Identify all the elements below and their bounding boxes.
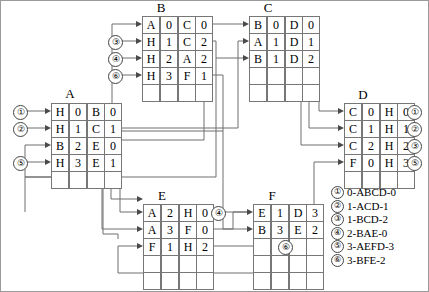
- cell: [52, 172, 70, 189]
- legend-item: ④ 2-BAE-0: [331, 227, 396, 241]
- marker-input-2: ②: [13, 122, 28, 137]
- legend-item: ⑤ 3-AEFD-3: [331, 240, 396, 254]
- table-row: [254, 273, 324, 290]
- cell: 0: [303, 17, 320, 34]
- cell: D: [289, 205, 307, 222]
- table-row: H 2 A 2: [143, 51, 213, 68]
- cell: [197, 273, 214, 290]
- cell: 2: [196, 51, 213, 68]
- cell: H: [143, 34, 161, 51]
- cell: 3: [307, 205, 324, 222]
- table-B: A 0 C 0 H 1 C 2 H 2 A 2 H 3 F 1: [142, 16, 213, 102]
- table-row: B 2 E 0: [52, 138, 122, 155]
- marker-output-2: ②: [407, 122, 422, 137]
- legend-marker-icon: ②: [331, 200, 344, 213]
- cell: F: [144, 239, 162, 256]
- cell: C: [87, 121, 105, 138]
- diagram-canvas: A H 0 B 0 H 1 C 1 B 2 E 0 H 3 E 1: [0, 0, 429, 292]
- cell: B: [250, 51, 268, 68]
- cell: 1: [267, 51, 285, 68]
- cell: H: [179, 239, 197, 256]
- legend-label: 1-ACD-1: [347, 200, 389, 214]
- legend-marker-icon: ①: [331, 186, 344, 199]
- table-row: H 0 B 0: [52, 104, 122, 121]
- legend-label: 3-AEFD-3: [347, 240, 394, 254]
- cell: 2: [161, 205, 179, 222]
- cell: 1: [105, 121, 122, 138]
- cell: A: [144, 222, 162, 239]
- cell: 1: [161, 239, 179, 256]
- cell: 1: [105, 155, 122, 172]
- table-row: B 3 E 2: [254, 222, 324, 239]
- table-title-C: C: [233, 2, 303, 14]
- cell: 3: [160, 68, 178, 85]
- cell: [197, 256, 214, 273]
- cell: [87, 172, 105, 189]
- legend-marker-icon: ⑤: [331, 240, 344, 253]
- table-row: F 1 H 2: [144, 239, 214, 256]
- cell: D: [285, 34, 303, 51]
- legend-marker-icon: ③: [331, 213, 344, 226]
- cell: 3: [69, 155, 87, 172]
- table-row: [143, 85, 213, 102]
- cell: C: [178, 17, 196, 34]
- cell: A: [143, 17, 161, 34]
- table-row: B 1 D 2: [250, 51, 320, 68]
- cell: [178, 85, 196, 102]
- cell: 1: [160, 34, 178, 51]
- table-row: A 1 D 1: [250, 34, 320, 51]
- cell: [303, 68, 320, 85]
- cell: [196, 85, 213, 102]
- cell: A: [250, 34, 268, 51]
- cell: H: [380, 121, 398, 138]
- cell: D: [285, 51, 303, 68]
- table-row: A 2 H 0: [144, 205, 214, 222]
- cell: [144, 273, 162, 290]
- cell: [303, 85, 320, 102]
- legend: ① 0-ABCD-0 ② 1-ACD-1 ③ 1-BCD-2 ④ 2-BAE-0…: [331, 186, 396, 267]
- marker-output-4: ④: [211, 206, 226, 221]
- cell: H: [380, 138, 398, 155]
- cell: [307, 239, 324, 256]
- cell: H: [179, 205, 197, 222]
- cell: B: [87, 104, 105, 121]
- marker-input-5: ⑤: [13, 156, 28, 171]
- cell: 2: [307, 222, 324, 239]
- cell: 2: [69, 138, 87, 155]
- cell: [285, 85, 303, 102]
- cell: 0: [267, 17, 285, 34]
- table-row: H 3 F 1: [143, 68, 213, 85]
- cell: [267, 85, 285, 102]
- cell: 1: [303, 34, 320, 51]
- cell: 0: [105, 104, 122, 121]
- cell: 0: [362, 155, 380, 172]
- cell: [250, 68, 268, 85]
- cell: H: [52, 155, 70, 172]
- marker-output-5: ⑤: [407, 156, 422, 171]
- cell: 3: [271, 222, 289, 239]
- cell: [398, 172, 415, 189]
- table-row: C 2 H 2: [345, 138, 415, 155]
- cell: 2: [362, 138, 380, 155]
- table-row: [250, 68, 320, 85]
- cell: B: [52, 138, 70, 155]
- table-title-B: B: [126, 2, 196, 14]
- cell: H: [52, 104, 70, 121]
- cell: 1: [69, 121, 87, 138]
- marker-input-1: ①: [13, 105, 28, 120]
- cell: 2: [303, 51, 320, 68]
- cell: C: [178, 34, 196, 51]
- cell: D: [285, 17, 303, 34]
- cell: [307, 256, 324, 273]
- table-row: B 0 D 0: [250, 17, 320, 34]
- legend-label: 1-BCD-2: [347, 213, 388, 227]
- cell: 2: [197, 239, 214, 256]
- table-title-F: F: [237, 190, 307, 202]
- cell: E: [254, 205, 272, 222]
- cell: [271, 273, 289, 290]
- cell: 2: [160, 51, 178, 68]
- cell: [179, 256, 197, 273]
- cell: 1: [271, 205, 289, 222]
- legend-marker-icon: ⑥: [331, 254, 344, 267]
- table-row: H 3 E 1: [52, 155, 122, 172]
